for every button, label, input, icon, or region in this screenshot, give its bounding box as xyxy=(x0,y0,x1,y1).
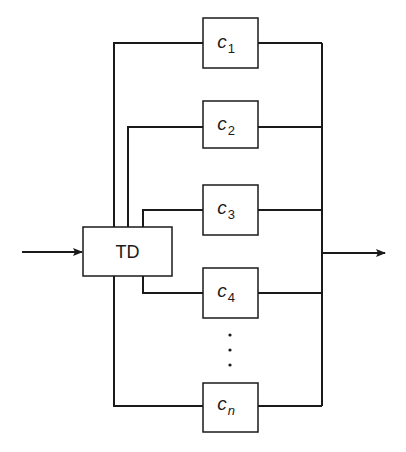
component-c4: c4 xyxy=(203,268,258,318)
component-var: c xyxy=(217,197,227,218)
component-var: c xyxy=(217,31,227,52)
ensemble-diagram: TD c1 c2 c3 c4 cn xyxy=(0,0,406,452)
component-sub: 3 xyxy=(228,207,235,222)
td-label: TD xyxy=(116,242,140,262)
component-sub: 4 xyxy=(228,290,235,305)
connector-c4 xyxy=(143,276,203,293)
component-var: c xyxy=(217,280,227,301)
td-block: TD xyxy=(83,227,172,276)
component-sub: n xyxy=(228,403,235,418)
component-c2: c2 xyxy=(203,101,258,148)
component-var: c xyxy=(217,113,227,134)
connector-c3 xyxy=(143,210,203,227)
component-var: c xyxy=(217,393,227,414)
component-sub: 2 xyxy=(228,123,235,138)
component-c1: c1 xyxy=(203,18,258,68)
connector-c2 xyxy=(128,127,203,227)
component-c3: c3 xyxy=(203,185,258,235)
ellipsis-icon xyxy=(228,333,231,366)
component-cn: cn xyxy=(203,383,258,432)
component-sub: 1 xyxy=(228,41,235,56)
connector-cn xyxy=(114,276,203,406)
